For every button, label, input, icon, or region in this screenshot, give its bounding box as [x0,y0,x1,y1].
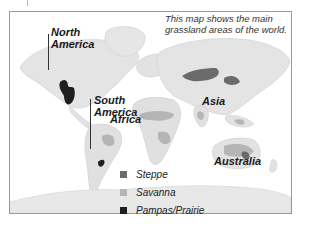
legend-label-pampas-prairie: Pampas/Prairie [136,205,204,216]
legend-item-pampas-prairie: Pampas/Prairie [120,201,204,219]
label-asia: Asia [202,95,225,107]
description-line1: This map shows the main [165,13,295,24]
top-tick-mark [27,0,28,6]
label-north-america-line2: America [51,38,94,50]
steppe-swatch-icon [120,171,127,178]
label-north-america: North America [51,26,94,50]
description-line2: grassland areas of the world. [165,24,295,35]
legend-item-savanna: Savanna [120,183,204,201]
map-description: This map shows the main grassland areas … [165,13,295,35]
label-south-america-line1: South [94,94,137,106]
legend-item-steppe: Steppe [120,165,204,183]
south-america-leader-line [90,99,91,149]
label-north-america-line1: North [51,26,94,38]
north-america-leader-line [48,34,49,70]
legend-label-savanna: Savanna [136,187,175,198]
label-australia: Australia [214,155,261,167]
label-africa: Africa [110,113,141,125]
landmass-new-zealand [269,160,276,172]
map-legend: Steppe Savanna Pampas/Prairie [120,165,204,219]
landmass-africa [132,97,180,164]
savanna-swatch-icon [120,189,127,196]
legend-label-steppe: Steppe [136,169,168,180]
pampas-prairie-swatch-icon [120,207,127,214]
